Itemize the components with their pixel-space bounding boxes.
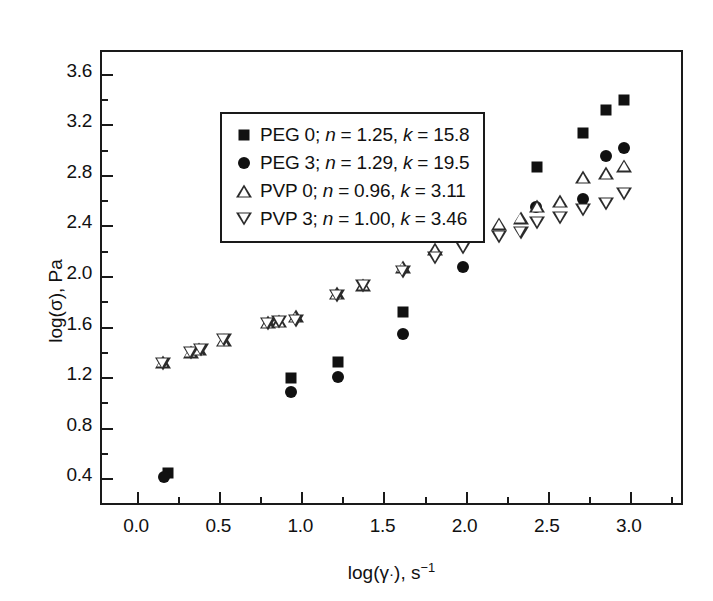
data-point-open-triangle-down [216,334,232,347]
y-axis-minor-tick [102,503,108,505]
data-point-open-triangle-down [552,211,568,224]
x-axis-tick-label: 2.5 [534,515,560,537]
x-axis-tick [219,492,221,503]
y-axis-tick-label: 2.4 [36,211,92,233]
data-point-open-triangle-up [616,159,632,172]
data-point-open-triangle-down [193,344,209,357]
data-point-open-triangle-down [288,315,304,328]
data-point-open-triangle-up [575,171,591,184]
y-axis-tick-label: 2.0 [36,262,92,284]
y-axis-tick-label: 3.2 [36,110,92,132]
y-axis-tick-label: 0.4 [36,464,92,486]
legend-item: PEG 3; n = 1.29, k = 19.5 [233,149,469,177]
x-axis-minor-tick [507,497,509,503]
figure-container: log(σ), Pa log(γ·), s−1 PEG 0; n = 1.25,… [0,0,713,601]
x-axis-minor-tick [260,497,262,503]
data-point-open-triangle-down [598,197,614,210]
x-axis-title: log(γ·), s−1 [100,560,683,584]
y-axis-tick [102,124,113,126]
filled-square-icon [233,124,255,146]
x-axis-minor-tick [342,497,344,503]
data-point-open-triangle-down [329,289,345,302]
legend-label: PVP 0; n = 0.96, k = 3.11 [260,180,466,202]
data-point-filled-circle [285,386,297,398]
x-axis-minor-tick [589,497,591,503]
y-axis-minor-tick [102,301,108,303]
data-point-open-triangle-up [513,211,529,224]
y-axis-minor-tick [102,402,108,404]
data-point-filled-square [619,95,630,106]
data-point-filled-circle [600,150,612,162]
data-point-open-triangle-down [455,241,471,254]
x-axis-minor-tick [671,497,673,503]
chart-legend: PEG 0; n = 1.25, k = 15.8 PEG 3; n = 1.2… [220,112,485,243]
legend-item: PEG 0; n = 1.25, k = 15.8 [233,121,469,149]
data-point-open-triangle-down [513,226,529,239]
data-point-open-triangle-down [575,203,591,216]
data-point-open-triangle-up [598,167,614,180]
y-axis-tick [102,377,113,379]
x-axis-minor-tick [178,497,180,503]
data-point-filled-square [333,356,344,367]
data-point-open-triangle-down [529,216,545,229]
x-axis-tick-label: 1.5 [370,515,396,537]
legend-item: PVP 3; n = 1.00, k = 3.46 [233,205,469,233]
data-point-filled-circle [457,261,469,273]
x-axis-minor-tick [425,497,427,503]
data-point-open-triangle-down [616,187,632,200]
data-point-open-triangle-down [491,230,507,243]
data-point-filled-square [601,105,612,116]
y-axis-minor-tick [102,99,108,101]
x-axis-tick-label: 2.0 [452,515,478,537]
y-axis-tick-label: 1.2 [36,363,92,385]
y-axis-minor-tick [102,251,108,253]
x-axis-tick [301,492,303,503]
legend-item: PVP 0; n = 0.96, k = 3.11 [233,177,469,205]
y-axis-minor-tick [102,453,108,455]
y-axis-tick-label: 2.8 [36,161,92,183]
data-point-filled-square [285,373,296,384]
x-axis-tick [383,492,385,503]
x-axis-tick [548,492,550,503]
data-point-open-triangle-down [155,358,171,371]
y-axis-tick-label: 1.6 [36,313,92,335]
y-axis-tick [102,74,113,76]
y-axis-tick [102,225,113,227]
legend-label: PEG 0; n = 1.25, k = 15.8 [260,124,469,146]
x-axis-tick-label: 3.0 [616,515,642,537]
x-axis-tick [137,492,139,503]
data-point-open-triangle-down [427,252,443,265]
data-point-filled-square [532,162,543,173]
data-point-open-triangle-down [355,279,371,292]
x-axis-tick-label: 0.0 [123,515,149,537]
y-axis-tick-label: 0.8 [36,414,92,436]
y-axis-tick [102,478,113,480]
legend-label: PEG 3; n = 1.29, k = 19.5 [260,152,469,174]
data-point-filled-square [578,127,589,138]
y-axis-tick [102,327,113,329]
data-point-open-triangle-up [529,200,545,213]
data-point-open-triangle-up [552,195,568,208]
open-triangle-up-icon [233,180,255,202]
data-point-open-triangle-up [491,217,507,230]
y-axis-tick [102,276,113,278]
data-point-filled-circle [332,371,344,383]
x-axis-tick [630,492,632,503]
y-axis-tick [102,428,113,430]
data-point-filled-circle [158,471,170,483]
x-axis-tick-label: 0.5 [205,515,231,537]
filled-circle-icon [233,152,255,174]
data-point-filled-circle [397,328,409,340]
data-point-open-triangle-down [395,265,411,278]
y-axis-minor-tick [102,352,108,354]
x-axis-tick-label: 1.0 [288,515,314,537]
x-axis-tick [466,492,468,503]
y-axis-minor-tick [102,150,108,152]
plot-frame: PEG 0; n = 1.25, k = 15.8 PEG 3; n = 1.2… [100,50,683,505]
open-triangle-down-icon [233,208,255,230]
y-axis-minor-tick [102,200,108,202]
y-axis-tick-label: 3.6 [36,60,92,82]
y-axis-tick [102,175,113,177]
legend-label: PVP 3; n = 1.00, k = 3.46 [260,208,467,230]
data-point-open-triangle-down [271,316,287,329]
